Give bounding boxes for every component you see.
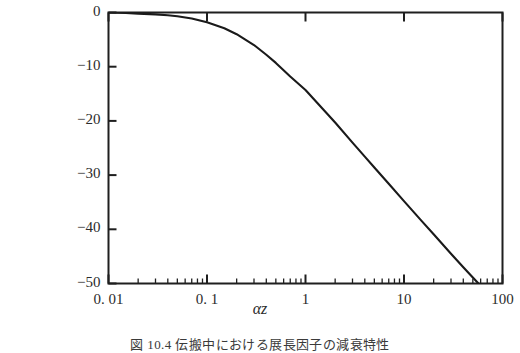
x-axis-label: αz bbox=[0, 300, 520, 318]
y-tick-label: 0 bbox=[57, 3, 101, 20]
y-tick-label: −40 bbox=[57, 219, 101, 236]
y-tick-label: −30 bbox=[57, 165, 101, 182]
y-tick-label: −50 bbox=[57, 274, 101, 291]
figure-caption: 図 10.4 伝搬中における展長因子の減衰特性 bbox=[0, 334, 520, 353]
x-axis-label-text: αz bbox=[253, 300, 268, 317]
y-tick-label: −20 bbox=[57, 111, 101, 128]
plot-frame bbox=[109, 13, 503, 284]
y-tick-label: −10 bbox=[57, 57, 101, 74]
